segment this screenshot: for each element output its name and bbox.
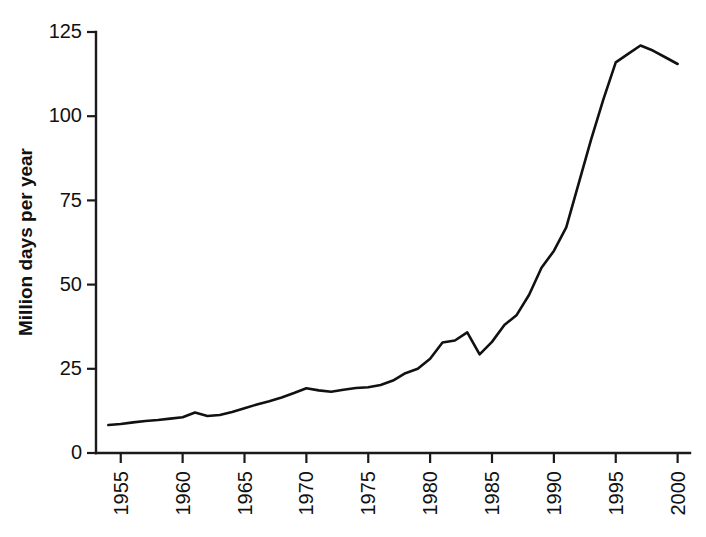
y-tick-label: 50	[60, 273, 82, 295]
line-chart: Million days per year 0255075100125 1955…	[0, 0, 706, 537]
y-tick-label: 75	[60, 189, 82, 211]
y-tick-label: 100	[49, 104, 82, 126]
x-axis-ticks: 1955196019651970197519801985199019952000	[110, 453, 689, 516]
y-tick-label: 25	[60, 357, 82, 379]
x-tick-label: 1995	[605, 471, 627, 516]
y-tick-label: 0	[71, 441, 82, 463]
x-tick-label: 2000	[667, 471, 689, 516]
x-tick-label: 1985	[481, 471, 503, 516]
y-tick-label: 125	[49, 20, 82, 42]
chart-container: Million days per year 0255075100125 1955…	[0, 0, 706, 537]
y-axis-ticks: 0255075100125	[49, 20, 96, 463]
x-tick-label: 1970	[295, 471, 317, 516]
y-axis-title: Million days per year	[15, 147, 36, 336]
x-tick-label: 1960	[172, 471, 194, 516]
x-tick-label: 1990	[543, 471, 565, 516]
x-tick-label: 1965	[234, 471, 256, 516]
x-tick-label: 1955	[110, 471, 132, 516]
data-series-line	[108, 45, 677, 425]
x-tick-label: 1980	[419, 471, 441, 516]
x-tick-label: 1975	[357, 471, 379, 516]
